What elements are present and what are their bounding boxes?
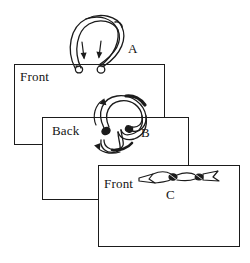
panel-a-step-letter: A xyxy=(128,42,137,55)
figure-canvas: Front A Back B Front C xyxy=(0,0,250,263)
panel-b-step-letter: B xyxy=(141,126,150,139)
panel-b-side-label: Back xyxy=(52,124,80,137)
panel-c-step-letter: C xyxy=(166,188,175,201)
panel-c-side-label: Front xyxy=(104,177,133,190)
panel-a-side-label: Front xyxy=(20,70,49,83)
